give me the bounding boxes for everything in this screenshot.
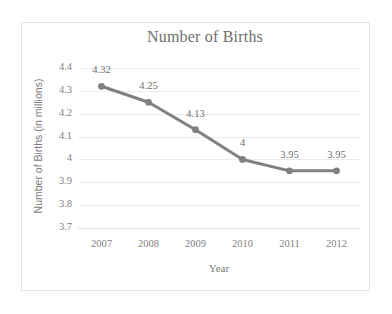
data-point-label: 4.25 xyxy=(119,80,179,91)
data-point-marker xyxy=(192,126,199,133)
data-point-label: 3.95 xyxy=(307,149,367,160)
x-axis-tick-label: 2012 xyxy=(307,238,367,249)
y-axis-tick-label: 4.4 xyxy=(12,61,72,72)
data-point-marker xyxy=(333,167,340,174)
data-point-marker xyxy=(239,156,246,163)
y-axis-tick-label: 4.2 xyxy=(12,107,72,118)
chart-title: Number of Births xyxy=(60,28,350,46)
x-axis-tick-labels: 200720082009201020112012 xyxy=(78,238,360,254)
y-axis-tick-label: 4.1 xyxy=(12,130,72,141)
data-point-marker xyxy=(98,83,105,90)
chart-figure: Number of Births Number of Births (in mi… xyxy=(0,0,392,314)
gridline xyxy=(78,228,360,229)
data-point-label: 4.32 xyxy=(72,64,132,75)
data-point-marker xyxy=(286,167,293,174)
y-axis-tick-label: 4.3 xyxy=(12,84,72,95)
data-point-label: 4 xyxy=(213,137,273,148)
y-axis-tick-label: 3.7 xyxy=(12,221,72,232)
data-point-marker xyxy=(145,99,152,106)
x-axis-title: Year xyxy=(78,262,360,274)
plot-area: 4.324.254.1343.953.95 xyxy=(78,68,360,228)
y-axis-tick-label: 4 xyxy=(12,152,72,163)
y-axis-tick-labels: 4.44.34.24.143.93.83.7 xyxy=(8,68,72,228)
y-axis-tick-label: 3.9 xyxy=(12,175,72,186)
data-point-label: 4.13 xyxy=(166,108,226,119)
y-axis-tick-label: 3.8 xyxy=(12,198,72,209)
